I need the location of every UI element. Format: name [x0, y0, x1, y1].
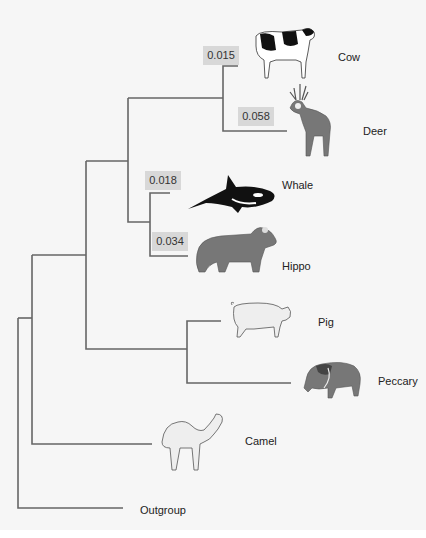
branch-outgroup [18, 318, 123, 508]
deer-icon [286, 82, 334, 160]
taxon-label-hippo: Hippo [282, 260, 311, 273]
hippo-icon [191, 224, 281, 276]
taxon-label-deer: Deer [363, 125, 387, 138]
cow-icon [252, 22, 318, 84]
distance-box-deer: 0.058 [238, 107, 274, 126]
taxon-label-outgroup: Outgroup [140, 504, 186, 517]
distance-box-hippo: 0.034 [152, 232, 188, 251]
whale-icon [186, 173, 278, 213]
branch-whippo [128, 98, 150, 222]
distance-box-cow: 0.015 [203, 46, 239, 65]
taxon-label-camel: Camel [245, 435, 277, 448]
camel-icon [158, 412, 230, 474]
taxon-label-pig: Pig [318, 316, 334, 329]
taxon-label-whale: Whale [282, 179, 313, 192]
taxon-label-peccary: Peccary [378, 375, 418, 388]
peccary-icon [302, 358, 362, 402]
pig-icon [228, 299, 294, 341]
taxon-label-cow: Cow [338, 51, 360, 64]
distance-box-whale: 0.018 [145, 171, 181, 190]
